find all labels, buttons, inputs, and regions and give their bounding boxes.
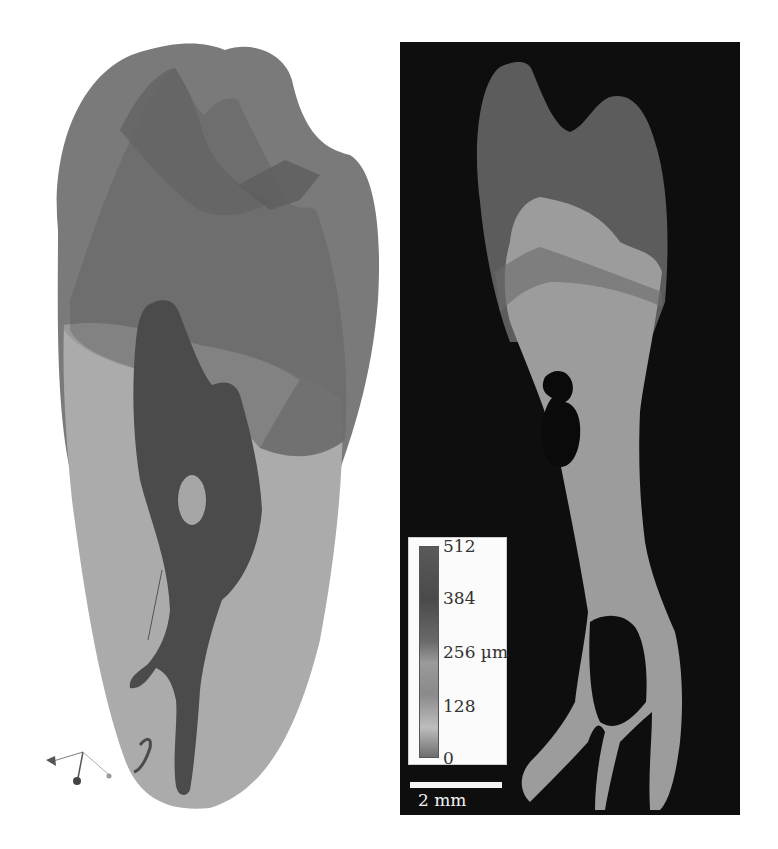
legend-tick-0: 0 (443, 750, 454, 767)
color-scale-legend: 512 384 256 µm 128 0 (408, 537, 507, 765)
legend-tick-256: 256 µm (443, 644, 508, 661)
dentin-core (505, 197, 682, 810)
legend-tick-128: 128 (443, 698, 475, 715)
thickness-map-panel: 512 384 256 µm 128 0 2 mm (400, 42, 740, 815)
pulp-hole (178, 475, 206, 525)
tooth-3d-render (0, 0, 400, 849)
color-scale-bar (419, 546, 439, 758)
scale-bar (410, 782, 502, 788)
legend-tick-384: 384 (443, 590, 475, 607)
scale-bar-label: 2 mm (418, 790, 466, 810)
axis-orientation-icon (46, 752, 112, 785)
tooth-3d-illustration (0, 0, 400, 849)
legend-tick-512: 512 (443, 538, 475, 555)
